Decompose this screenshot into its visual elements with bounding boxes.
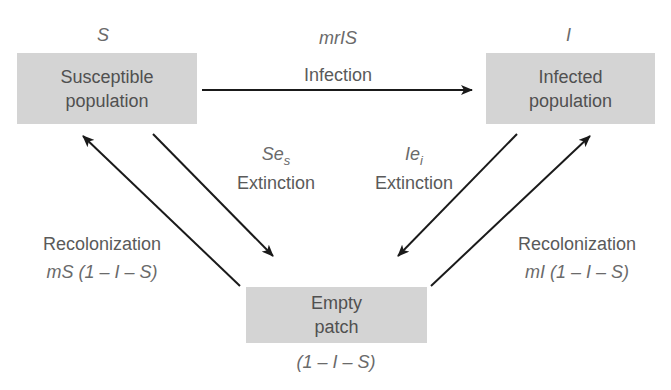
infected-population-node: Infected population: [486, 53, 655, 124]
recolonization-s-rate: mS (1 – I – S): [27, 261, 177, 283]
recolonization-i-label: Recolonization: [502, 233, 652, 255]
susceptible-label-line1: Susceptible: [60, 65, 153, 89]
empty-patch-node: Empty patch: [246, 287, 427, 343]
infection-rate: mrIS: [298, 27, 378, 49]
infected-symbol: I: [566, 24, 571, 46]
infected-label-line2: population: [529, 89, 612, 113]
extinction-s-rate-sub: s: [284, 153, 291, 168]
susceptible-label-line2: population: [65, 89, 148, 113]
recolonization-s-label: Recolonization: [27, 233, 177, 255]
empty-label-line2: patch: [314, 315, 358, 339]
infection-label: Infection: [288, 64, 388, 86]
susceptible-population-node: Susceptible population: [17, 53, 197, 124]
extinction-s-rate-base: Se: [262, 144, 284, 164]
extinction-s-label: Extinction: [226, 172, 326, 194]
extinction-s-rate: Ses: [236, 143, 316, 172]
extinction-i-label: Extinction: [364, 172, 464, 194]
recolonization-i-rate: mI (1 – I – S): [502, 261, 652, 283]
extinction-i-rate: Iei: [384, 143, 444, 172]
empty-label-line1: Empty: [311, 291, 362, 315]
extinction-i-rate-sub: i: [420, 153, 423, 168]
empty-patch-expression: (1 – I – S): [296, 351, 376, 373]
extinction-i-rate-base: Ie: [405, 144, 420, 164]
susceptible-symbol: S: [97, 24, 109, 46]
infected-label-line1: Infected: [538, 65, 602, 89]
